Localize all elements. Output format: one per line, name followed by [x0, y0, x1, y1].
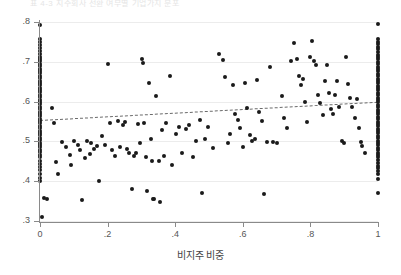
data-point: [68, 153, 72, 157]
data-point: [325, 63, 329, 67]
data-point: [295, 57, 299, 61]
data-point: [327, 91, 331, 95]
data-point: [198, 118, 202, 122]
data-point: [200, 191, 204, 195]
data-point: [203, 137, 207, 141]
data-point: [150, 159, 154, 163]
data-point: [168, 74, 172, 78]
x-tick-label: .4: [160, 229, 190, 239]
data-point: [268, 65, 272, 69]
data-point: [299, 83, 303, 87]
data-point: [335, 79, 339, 83]
data-point: [376, 177, 380, 181]
data-point: [134, 151, 138, 155]
data-point: [141, 61, 145, 65]
data-point: [363, 151, 367, 155]
data-point: [78, 148, 82, 152]
data-point: [162, 154, 166, 158]
data-point: [180, 151, 184, 155]
data-point: [206, 125, 210, 129]
data-point: [88, 152, 92, 156]
data-point: [103, 143, 107, 147]
data-point: [76, 143, 80, 147]
data-point: [142, 121, 146, 125]
data-point: [348, 96, 352, 100]
data-point: [157, 159, 161, 163]
data-point: [211, 146, 215, 150]
data-point: [95, 144, 99, 148]
data-point: [257, 110, 261, 114]
data-point: [241, 145, 245, 149]
data-point: [282, 116, 286, 120]
data-point: [344, 55, 348, 59]
data-point: [89, 141, 93, 145]
x-tick: [243, 223, 244, 227]
y-tick-label: .5: [4, 136, 30, 145]
data-point: [223, 75, 227, 79]
figure-caption-sliver: 표 4-3 지주회사 전환 여부별 기업가치 분포: [30, 0, 330, 7]
data-point: [280, 94, 284, 98]
data-point: [83, 156, 87, 160]
data-point: [289, 59, 293, 63]
data-point: [337, 105, 341, 109]
x-tick: [310, 223, 311, 227]
data-point: [255, 78, 259, 82]
data-point: [149, 137, 153, 141]
data-point: [236, 118, 240, 122]
y-tick: [34, 22, 39, 23]
data-point: [275, 141, 279, 145]
data-point: [164, 121, 168, 125]
data-point: [260, 119, 264, 123]
data-point: [376, 191, 380, 195]
data-point: [144, 155, 148, 159]
data-point: [60, 140, 64, 144]
data-point: [97, 179, 101, 183]
data-point: [217, 52, 221, 56]
x-tick: [108, 223, 109, 227]
data-point: [305, 120, 309, 124]
data-point: [231, 83, 235, 87]
data-point: [130, 187, 134, 191]
x-tick-label: 0: [25, 229, 55, 239]
data-point: [108, 121, 112, 125]
x-tick: [40, 223, 41, 227]
x-axis-line: [39, 222, 379, 223]
data-point: [152, 197, 156, 201]
data-point: [69, 163, 73, 167]
data-point: [350, 105, 354, 109]
data-point: [118, 145, 122, 149]
data-point: [353, 116, 357, 120]
y-tick-label: .3: [4, 216, 30, 225]
data-point: [262, 192, 266, 196]
data-point: [147, 81, 151, 85]
data-point: [113, 154, 117, 158]
data-point: [184, 127, 188, 131]
data-point: [123, 120, 127, 124]
data-point: [303, 100, 307, 104]
data-point: [100, 134, 104, 138]
y-tick-label: .7: [4, 57, 30, 66]
data-point: [228, 132, 232, 136]
data-point: [292, 41, 296, 45]
x-tick: [175, 223, 176, 227]
scatter-plot-figure: 표 4-3 지주회사 전환 여부별 기업가치 분포 .3.4.5.6.7.8 0…: [0, 0, 401, 275]
y-tick: [34, 62, 39, 63]
data-point: [233, 112, 237, 116]
data-point: [127, 151, 131, 155]
data-point: [321, 113, 325, 117]
y-tick-label: .6: [4, 97, 30, 106]
data-point: [138, 141, 142, 145]
data-point: [45, 197, 49, 201]
y-tick-label: .4: [4, 176, 30, 185]
data-point: [346, 82, 350, 86]
grid-line: [40, 22, 378, 23]
data-point: [158, 200, 162, 204]
data-point: [310, 39, 314, 43]
data-point: [136, 122, 140, 126]
data-point: [106, 62, 110, 66]
data-point: [376, 22, 380, 26]
x-tick-label: 1: [363, 229, 393, 239]
data-point: [301, 77, 305, 81]
data-point: [333, 93, 337, 97]
data-point: [52, 121, 56, 125]
